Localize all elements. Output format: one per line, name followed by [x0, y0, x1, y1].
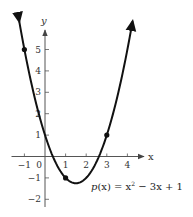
y-tick-label: 4 — [35, 66, 41, 76]
x-tick-label: 0 — [36, 160, 42, 170]
y-tick-label: 5 — [35, 45, 41, 55]
axes-group: −101234 −2−112345 x y — [12, 15, 155, 207]
y-axis-label: y — [40, 15, 47, 26]
x-tick-label: −1 — [18, 160, 31, 170]
data-point — [104, 133, 109, 138]
x-tick-label: 1 — [63, 160, 69, 170]
y-tick-label: −1 — [28, 173, 41, 183]
y-axis-ticks: −2−112345 — [28, 45, 49, 205]
data-point — [22, 47, 27, 52]
equation-label: p(x) = x2 − 3x + 1 — [91, 180, 183, 192]
x-tick-label: 2 — [83, 160, 89, 170]
y-tick-label: 1 — [35, 130, 41, 140]
y-tick-label: −2 — [28, 194, 41, 204]
x-tick-label: 3 — [104, 160, 110, 170]
x-axis-ticks: −101234 — [18, 154, 131, 170]
x-axis-label: x — [148, 151, 154, 162]
y-tick-label: 3 — [35, 87, 41, 97]
parabola-chart: −101234 −2−112345 x y p(x) = x2 − 3x + 1 — [0, 0, 193, 217]
x-tick-label: 4 — [125, 160, 131, 170]
data-point — [63, 175, 68, 180]
